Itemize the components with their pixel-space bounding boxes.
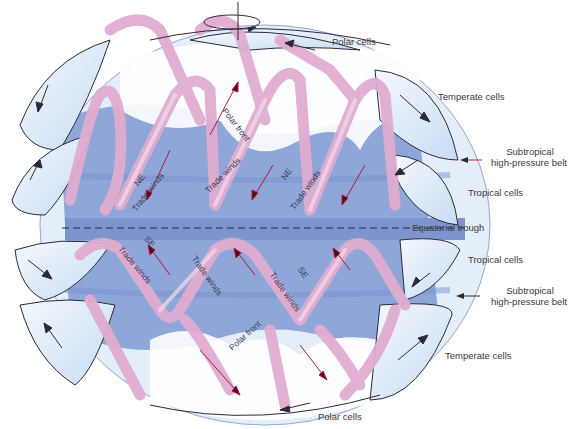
label-subtropical-bottom-line2: high-pressure belt (484, 296, 572, 307)
label-equatorial-trough: Equatorial trough (412, 222, 484, 233)
label-subtropical-top-line2: high-pressure belt (484, 157, 572, 168)
label-polar-cells-top: Polar cells (332, 36, 376, 47)
label-tropical-cells-bottom: Tropical cells (468, 254, 523, 265)
label-tropical-cells-top: Tropical cells (468, 187, 523, 198)
polar-front-south-cap (150, 331, 380, 420)
label-temperate-cells-bottom: Temperate cells (445, 350, 512, 361)
circulation-diagram: Polar cells Temperate cells Subtropical … (0, 0, 572, 429)
label-temperate-cells-top: Temperate cells (438, 91, 505, 102)
label-subtropical-bottom-line1: Subtropical (490, 285, 570, 296)
globe-illustration (0, 0, 572, 429)
label-polar-cells-bottom: Polar cells (318, 411, 362, 422)
label-subtropical-top-line1: Subtropical (490, 146, 570, 157)
